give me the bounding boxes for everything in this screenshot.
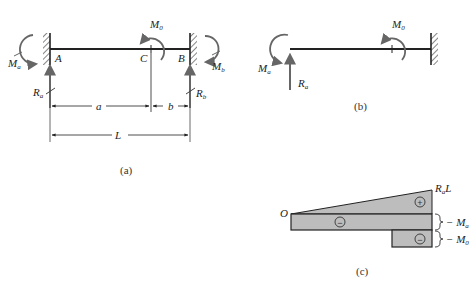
negative-moment-rect-M0 — [392, 230, 432, 247]
svg-text:Ma: Ma — [7, 57, 21, 71]
label-O: O — [280, 207, 288, 219]
label-C: C — [140, 52, 148, 64]
moment-arrow-left-icon — [270, 35, 288, 63]
caption-a: (a) — [120, 164, 133, 177]
svg-text:L: L — [114, 129, 121, 141]
svg-text:Rb: Rb — [195, 87, 207, 101]
svg-text:Ra: Ra — [297, 77, 309, 91]
svg-text:M0: M0 — [391, 18, 405, 32]
moment-arrow-right-icon — [205, 36, 219, 62]
svg-text:− Ma: − Ma — [446, 216, 469, 230]
dimension-L: L — [52, 129, 188, 141]
fixed-support-right-icon — [190, 33, 197, 65]
svg-text:−: − — [337, 218, 342, 228]
beam-figure: Ma A M0 C B Mb Ra Rb a — [0, 0, 476, 286]
brace-icon — [435, 214, 443, 230]
svg-text:RaL: RaL — [434, 182, 451, 196]
fixed-support-right-icon — [431, 33, 438, 65]
moment-arrow-left-icon — [20, 35, 36, 64]
svg-text:b: b — [168, 100, 174, 112]
positive-moment-triangle — [291, 190, 432, 214]
dimension-b: b — [153, 100, 188, 112]
svg-text:− M0: − M0 — [446, 233, 469, 247]
panel-a: Ma A M0 C B Mb Ra Rb a — [7, 18, 225, 177]
brace-icon — [435, 231, 443, 247]
svg-text:a: a — [96, 100, 102, 112]
caption-c: (c) — [356, 265, 369, 278]
panel-b: Ma Ra M0 (b) — [257, 18, 438, 113]
svg-text:Ma: Ma — [257, 62, 271, 76]
fixed-support-left-icon — [43, 33, 50, 65]
label-B: B — [178, 52, 185, 64]
svg-text:+: + — [417, 198, 422, 208]
caption-b: (b) — [354, 100, 367, 113]
svg-text:Ra: Ra — [32, 86, 44, 100]
label-A: A — [54, 52, 62, 64]
panel-c: + − − O RaL − Ma − M0 (c) — [280, 182, 469, 278]
svg-text:M0: M0 — [149, 18, 163, 32]
svg-text:Mb: Mb — [211, 60, 225, 74]
dimension-a: a — [52, 100, 149, 112]
negative-moment-rect-Ma — [291, 214, 432, 230]
svg-text:−: − — [417, 235, 422, 245]
